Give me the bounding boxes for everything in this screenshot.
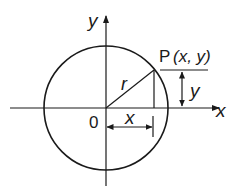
radius-line <box>106 70 154 108</box>
radius-label: r <box>121 74 128 94</box>
horizontal-measure-label: x <box>124 107 136 128</box>
point-name-label: P <box>159 47 170 66</box>
vertical-measure-label: y <box>188 80 201 101</box>
origin-label: 0 <box>89 113 98 132</box>
diagram-svg: y x 0 r P (x, y) y x <box>0 0 230 190</box>
y-axis-label: y <box>86 10 99 31</box>
unit-circle-diagram: y x 0 r P (x, y) y x <box>0 0 230 190</box>
x-axis-label: x <box>215 100 227 121</box>
point-coords-label: (x, y) <box>173 47 211 66</box>
